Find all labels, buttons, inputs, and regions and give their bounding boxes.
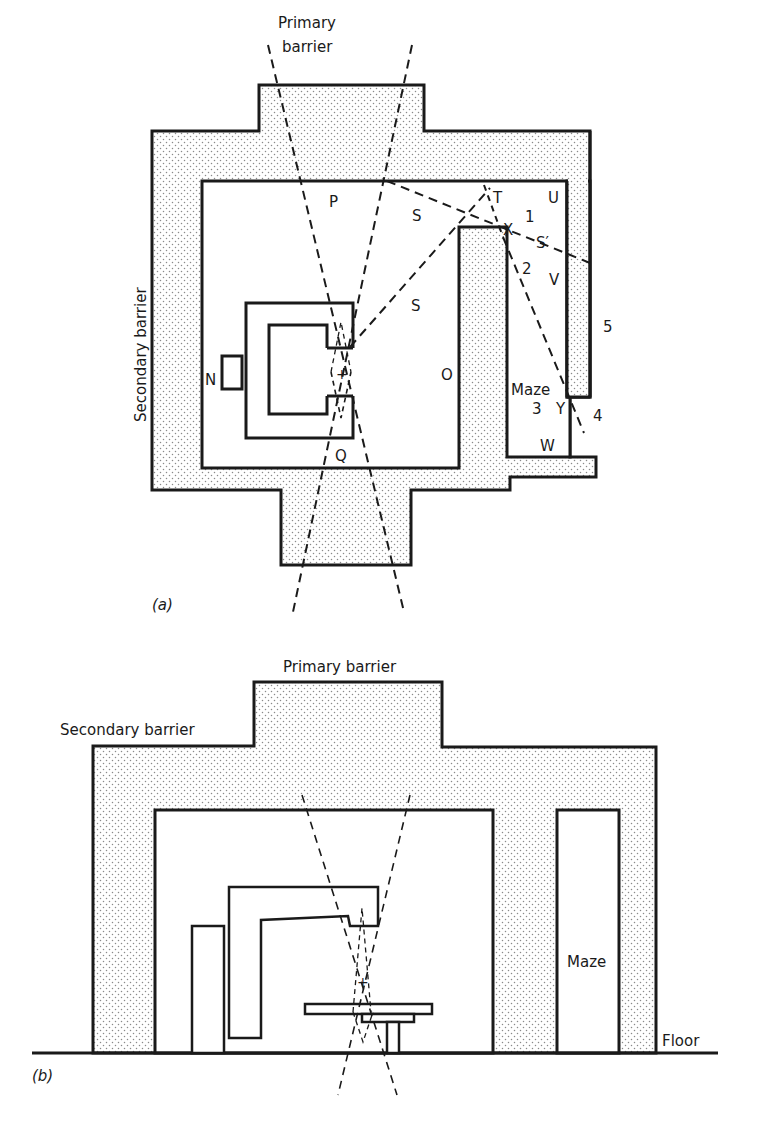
label-2: 2 <box>522 260 532 278</box>
label-q: Q <box>335 447 347 465</box>
label-secondary-barrier: Secondary barrier <box>132 287 150 422</box>
radiotherapy-bunker-figure: + Primary barrier Secondary barrier P S … <box>0 0 758 1128</box>
label-w: W <box>540 437 555 455</box>
label-1: 1 <box>525 208 535 226</box>
label-5: 5 <box>603 318 613 336</box>
panel-label-a: (a) <box>152 596 173 614</box>
label-n: N <box>205 371 216 389</box>
label-floor: Floor <box>662 1032 700 1050</box>
label-secondary-barrier-b: Secondary barrier <box>60 721 195 739</box>
label-3: 3 <box>532 400 542 418</box>
label-maze-b: Maze <box>567 953 606 971</box>
maze-outer-wall-top <box>568 133 588 396</box>
isocentre-marker-b: + <box>357 974 369 990</box>
label-s-lower: S <box>411 297 421 315</box>
label-4: 4 <box>593 407 603 425</box>
console-box-n <box>222 356 242 389</box>
label-primary-barrier-b: Primary barrier <box>283 658 397 676</box>
label-v: V <box>549 271 560 289</box>
label-o: O <box>441 366 453 384</box>
label-y: Y <box>555 400 566 418</box>
label-primary-barrier-1: Primary <box>278 14 336 32</box>
label-s-upper: S <box>412 207 422 225</box>
couch-pedestal <box>387 1022 399 1053</box>
equipment-cabinet <box>192 926 224 1053</box>
couch-top <box>305 1004 432 1014</box>
label-u: U <box>548 189 559 207</box>
label-t: T <box>492 189 503 207</box>
panel-label-b: (b) <box>32 1067 53 1085</box>
maze-section <box>557 810 619 1053</box>
label-p: P <box>329 193 338 211</box>
label-maze-plan: Maze <box>511 381 550 399</box>
label-s-prime: S′ <box>536 234 550 252</box>
label-x: X <box>503 221 513 239</box>
label-primary-barrier-2: barrier <box>282 38 333 56</box>
room-and-maze-interior <box>202 181 570 468</box>
